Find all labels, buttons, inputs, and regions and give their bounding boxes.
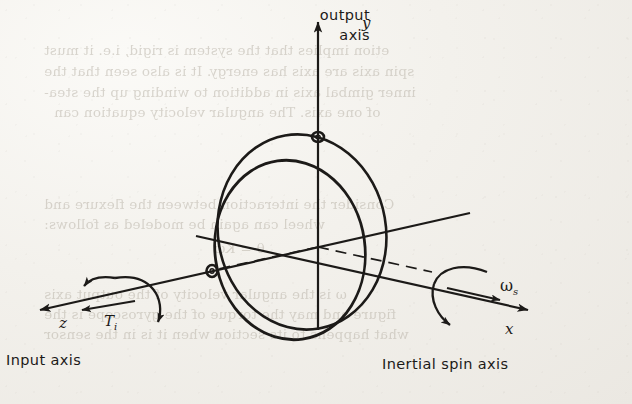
gyroscope-diagram-svg — [0, 0, 632, 404]
input-axis-caption: Input axis — [6, 352, 81, 368]
inertial-spin-axis-caption: Inertial spin axis — [382, 356, 508, 372]
outer-gimbal-ring — [202, 121, 401, 343]
hidden-axis-segments — [214, 140, 432, 272]
figure-canvas: etion implies that the system is rigid, … — [0, 0, 632, 404]
z-axis-arrow — [40, 213, 470, 310]
spin-rate-symbol: ω — [500, 276, 513, 295]
x-axis-label: x — [505, 320, 513, 338]
x-axis-hidden-segment — [318, 247, 432, 272]
input-torque-symbol: T — [104, 312, 114, 330]
spin-rate-subscript: s — [513, 286, 518, 297]
spin-rate-label: ωs — [500, 276, 518, 297]
input-torque-label: Ti — [104, 312, 117, 332]
input-torque-subscript: i — [114, 321, 117, 332]
x-axis-rotation-arc-upper — [434, 267, 487, 284]
y-axis-label: y — [362, 14, 370, 32]
z-axis-label: z — [59, 314, 67, 332]
input-torque-vector — [82, 301, 135, 310]
z-axis-rotation-arc-upper — [84, 277, 115, 286]
x-axis-arrow — [196, 236, 528, 310]
